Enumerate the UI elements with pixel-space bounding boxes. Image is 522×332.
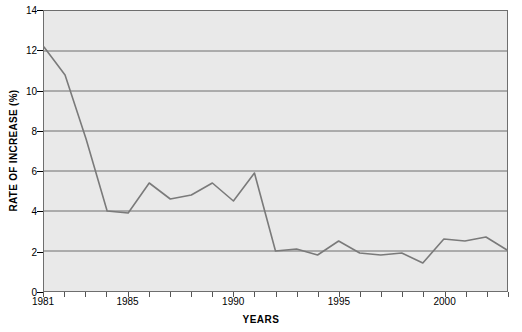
plot-area bbox=[43, 10, 508, 292]
y-axis-title: RATE OF INCREASE (%) bbox=[8, 56, 19, 246]
x-axis-tick-mark bbox=[170, 292, 171, 297]
x-axis-tick-mark bbox=[85, 292, 86, 297]
y-axis-tick-label: 10 bbox=[26, 85, 37, 96]
x-axis-tick-label: 2000 bbox=[433, 296, 455, 307]
y-axis-tick-labels: 02468101214 bbox=[0, 0, 37, 332]
x-axis-tick-label: 1995 bbox=[328, 296, 350, 307]
x-axis-tick-mark bbox=[212, 292, 213, 297]
x-axis-tick-mark bbox=[360, 292, 361, 297]
x-axis-tick-label: 1981 bbox=[32, 296, 54, 307]
x-axis-tick-mark bbox=[381, 292, 382, 297]
x-axis-tick-mark bbox=[191, 292, 192, 297]
x-axis-tick-mark bbox=[466, 292, 467, 297]
x-axis-tick-mark bbox=[318, 292, 319, 297]
x-axis-title: YEARS bbox=[0, 314, 522, 325]
x-axis-tick-mark bbox=[423, 292, 424, 297]
x-axis-tick-mark bbox=[149, 292, 150, 297]
y-axis-tick-label: 14 bbox=[26, 5, 37, 16]
x-axis-tick-mark bbox=[508, 292, 509, 297]
line-chart: 02468101214 19811985199019952000 YEARS R… bbox=[0, 0, 522, 332]
x-axis-tick-mark bbox=[64, 292, 65, 297]
data-series-layer bbox=[44, 11, 507, 291]
x-axis-tick-label: 1990 bbox=[222, 296, 244, 307]
x-axis-tick-mark bbox=[402, 292, 403, 297]
x-axis-tick-mark bbox=[487, 292, 488, 297]
x-axis-tick-mark bbox=[254, 292, 255, 297]
x-axis-tick-mark bbox=[106, 292, 107, 297]
series-line-rate-of-increase bbox=[44, 47, 507, 263]
y-axis-tick-label: 12 bbox=[26, 45, 37, 56]
x-axis-tick-label: 1985 bbox=[116, 296, 138, 307]
x-axis-tick-mark bbox=[276, 292, 277, 297]
x-axis-tick-mark bbox=[297, 292, 298, 297]
